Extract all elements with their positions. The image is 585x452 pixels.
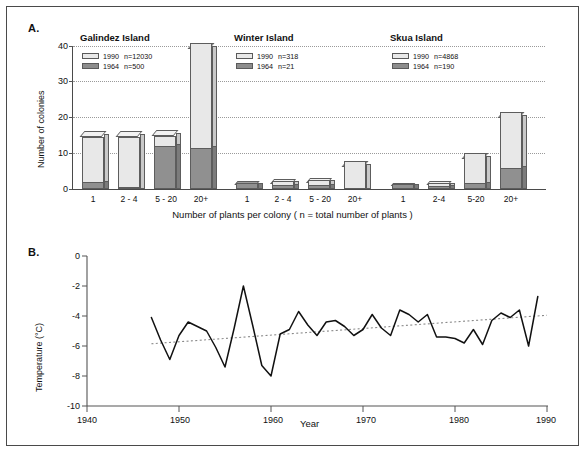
bar-winter-1 xyxy=(236,181,258,189)
legend-n-1990: n=4868 xyxy=(434,52,458,61)
bar-winter-2-4 xyxy=(272,179,294,189)
legend-n-1990: n=12030 xyxy=(124,52,152,61)
legend-label-1990: 1990 xyxy=(257,52,278,61)
xtick-skua-2-4: 2-4 xyxy=(424,194,454,204)
figure-container: A. Number of colonies 40 30 20 10 0 Gali… xyxy=(0,0,585,452)
xtick-winter-20plus: 20+ xyxy=(340,194,370,204)
panel-b-x-tickmarks xyxy=(87,406,547,412)
panel-b-temperature-line xyxy=(151,286,537,376)
group-title-winter: Winter Island xyxy=(234,32,294,43)
panel-a-bar-charts: A. Number of colonies 40 30 20 10 0 Gali… xyxy=(0,0,585,232)
legend-label-1964: 1964 xyxy=(413,62,434,71)
panel-a-letter: A. xyxy=(28,22,39,34)
panel-a-ytick-0: 0 xyxy=(46,184,68,194)
panel-a-ytick-10: 10 xyxy=(46,148,68,158)
legend-n-1964: n=21 xyxy=(278,62,294,71)
legend-galindez: 1990 n=12030 1964 n=500 xyxy=(82,52,152,72)
panel-a-y-axis-title: Number of colonies xyxy=(36,90,46,168)
legend-swatch-1964-icon xyxy=(82,63,99,69)
panel-b-y-tickmarks xyxy=(82,256,87,406)
bar-galindez-20plus xyxy=(190,43,212,189)
bar-galindez-2-4 xyxy=(118,131,140,189)
legend-item-1964: 1964 n=190 xyxy=(392,62,458,70)
panel-b-temperature-chart: B. Temperature (°C) 0 -2 -4 -6 -8 -10 19… xyxy=(0,232,585,452)
legend-label-1964: 1964 xyxy=(257,62,278,71)
legend-swatch-1964-icon xyxy=(392,63,409,69)
bar-skua-20plus xyxy=(500,112,522,189)
legend-swatch-1964-icon xyxy=(236,63,253,69)
bar-winter-5-20 xyxy=(308,178,330,189)
xtick-galindez-20plus: 20+ xyxy=(186,194,216,204)
group-title-galindez: Galindez Island xyxy=(80,32,150,43)
group-title-skua: Skua Island xyxy=(390,32,443,43)
xtick-skua-20plus: 20+ xyxy=(496,194,526,204)
legend-label-1990: 1990 xyxy=(413,52,434,61)
panel-a-ytick-40: 40 xyxy=(46,41,68,51)
legend-label-1964: 1964 xyxy=(103,62,124,71)
legend-item-1990: 1990 n=12030 xyxy=(82,52,152,60)
panel-a-ytick-20: 20 xyxy=(46,112,68,122)
legend-skua: 1990 n=4868 1964 n=190 xyxy=(392,52,458,72)
xtick-galindez-5-20: 5 - 20 xyxy=(150,194,182,204)
xtick-skua-5-20: 5-20 xyxy=(460,194,492,204)
panel-a-x-axis-title: Number of plants per colony ( n = total … xyxy=(0,209,585,220)
legend-label-1990: 1990 xyxy=(103,52,124,61)
legend-item-1964: 1964 n=21 xyxy=(236,62,298,70)
legend-swatch-1990-icon xyxy=(392,53,409,59)
legend-item-1990: 1990 n=4868 xyxy=(392,52,458,60)
bar-galindez-1 xyxy=(82,131,104,189)
legend-winter: 1990 n=318 1964 n=21 xyxy=(236,52,298,72)
bar-skua-5-20 xyxy=(464,153,486,189)
legend-item-1964: 1964 n=500 xyxy=(82,62,152,70)
bar-winter-20plus xyxy=(344,161,366,189)
panel-b-plot-area xyxy=(0,232,585,432)
xtick-winter-1: 1 xyxy=(232,194,262,204)
legend-swatch-1990-icon xyxy=(236,53,253,59)
xtick-skua-1: 1 xyxy=(388,194,418,204)
xtick-winter-2-4: 2 - 4 xyxy=(268,194,298,204)
legend-n-1990: n=318 xyxy=(278,52,298,61)
legend-n-1964: n=190 xyxy=(434,62,454,71)
bar-skua-1 xyxy=(392,183,414,189)
panel-a-baseline xyxy=(72,189,546,190)
bar-skua-2-4 xyxy=(428,181,450,189)
legend-n-1964: n=500 xyxy=(124,62,144,71)
panel-a-ytick-30: 30 xyxy=(46,76,68,86)
xtick-winter-5-20: 5 - 20 xyxy=(304,194,336,204)
legend-swatch-1990-icon xyxy=(82,53,99,59)
bar-galindez-5-20 xyxy=(154,130,176,189)
legend-item-1990: 1990 n=318 xyxy=(236,52,298,60)
xtick-galindez-1: 1 xyxy=(78,194,108,204)
xtick-galindez-2-4: 2 - 4 xyxy=(114,194,144,204)
